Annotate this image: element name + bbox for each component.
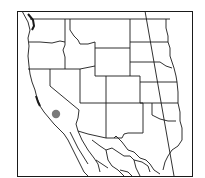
ut-wy-border — [95, 66, 106, 76]
baja-coast — [64, 134, 88, 176]
sf-bay — [36, 96, 40, 106]
gulf-of-california-west — [70, 132, 88, 164]
sd-ne-border — [130, 62, 172, 68]
puget-sound — [28, 14, 34, 30]
id-wy-border — [80, 48, 95, 69]
state-borders — [22, 11, 182, 176]
occurrence-marker — [52, 110, 60, 118]
az-mexico-border — [76, 124, 116, 138]
map-svg — [0, 0, 205, 178]
wyoming-border — [95, 48, 130, 76]
range-map — [0, 0, 205, 178]
wa-or-border — [29, 41, 65, 43]
id-mt-border — [70, 19, 95, 48]
nm-tx-border — [114, 103, 143, 138]
wa-id-border — [63, 19, 65, 69]
mexico-state-border-6 — [120, 170, 132, 176]
map-frame — [18, 12, 193, 177]
diagonal-meridian — [145, 11, 174, 176]
mexico-state-border-1 — [92, 140, 118, 152]
colorado-border — [106, 76, 140, 103]
